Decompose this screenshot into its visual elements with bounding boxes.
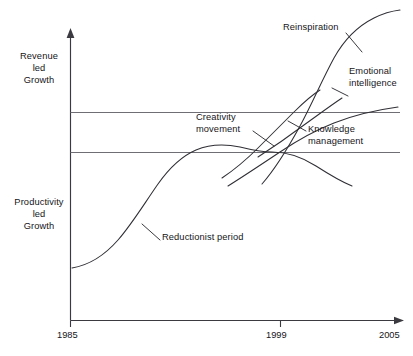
annotation-emotional-intelligence: Emotional intelligence <box>349 65 411 89</box>
leader-emotional-intelligence <box>332 88 348 96</box>
curve-reductionist-period <box>72 145 352 268</box>
x-axis-arrowhead <box>394 317 404 325</box>
annotation-creativity-movement: Creativity movement <box>196 111 258 135</box>
y-axis-band-label-revenue: Revenue led Growth <box>8 50 70 86</box>
annotation-knowledge-management: Knowledge management <box>308 123 382 147</box>
x-axis-tick-label-1985: 1985 <box>57 330 78 341</box>
x-axis-tick-label-2005: 2005 <box>379 330 400 341</box>
annotation-reinspiration: Reinspiration <box>283 21 361 33</box>
annotation-reductionist-period: Reductionist period <box>162 231 260 243</box>
leader-reductionist-period <box>142 224 160 240</box>
x-axis-tick-label-1999: 1999 <box>266 330 287 341</box>
chart-figure: Revenue led Growth Productivity led Grow… <box>0 0 413 356</box>
leader-reinspiration <box>346 33 362 52</box>
curve-reinspiration <box>262 10 400 184</box>
y-axis-band-label-productivity: Productivity led Growth <box>4 196 74 232</box>
y-axis-arrowhead <box>67 28 75 38</box>
